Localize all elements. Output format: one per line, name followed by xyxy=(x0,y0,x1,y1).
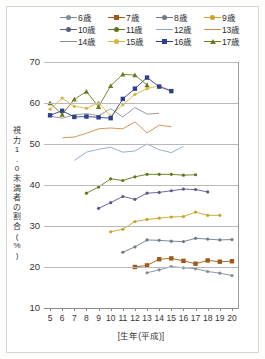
legend-marker-icon xyxy=(108,24,125,34)
legend-row: 10歳11歳12歳13歳 xyxy=(60,23,255,35)
data-point xyxy=(121,251,124,254)
legend-item-11歳[interactable]: 11歳 xyxy=(108,23,156,35)
legend-item-8歳[interactable]: 8歳 xyxy=(156,11,204,23)
legend-item-15歳[interactable]: 15歳 xyxy=(108,35,156,47)
data-point xyxy=(158,239,161,242)
data-point xyxy=(121,97,125,101)
series-line xyxy=(62,122,171,138)
data-point xyxy=(158,217,161,220)
legend-label: 8歳 xyxy=(173,11,187,23)
legend-item-9歳[interactable]: 9歳 xyxy=(204,11,252,23)
data-point xyxy=(218,214,221,217)
data-point xyxy=(158,191,161,194)
data-point xyxy=(133,86,137,90)
x-axis-line xyxy=(44,308,238,309)
data-point xyxy=(48,113,52,117)
data-point xyxy=(84,89,89,94)
legend-item-10歳[interactable]: 10歳 xyxy=(60,23,108,35)
series-line xyxy=(99,189,208,208)
legend-marker-icon xyxy=(156,24,173,34)
data-point xyxy=(133,175,136,178)
data-point xyxy=(218,238,221,241)
x-tick xyxy=(62,308,63,311)
legend-label: 10歳 xyxy=(77,23,96,35)
data-point xyxy=(170,173,173,176)
chart-legend: 6歳7歳8歳9歳10歳11歳12歳13歳14歳15歳16歳17歳 xyxy=(60,11,255,51)
legend-marker-icon xyxy=(60,24,77,34)
data-point xyxy=(85,192,88,195)
data-point xyxy=(133,220,136,223)
data-point xyxy=(145,173,148,176)
legend-item-17歳[interactable]: 17歳 xyxy=(204,35,252,47)
x-tick xyxy=(208,308,209,311)
gridline xyxy=(44,267,238,268)
x-tick xyxy=(50,308,51,311)
legend-item-12歳[interactable]: 12歳 xyxy=(156,23,204,35)
data-point xyxy=(182,188,185,191)
x-tick xyxy=(183,308,184,311)
data-point xyxy=(218,272,221,275)
series-line xyxy=(111,212,220,232)
data-point xyxy=(218,259,222,263)
data-point xyxy=(182,174,185,177)
data-point xyxy=(205,258,209,262)
legend-item-14歳[interactable]: 14歳 xyxy=(60,35,108,47)
data-point xyxy=(97,207,100,210)
data-point xyxy=(121,228,124,231)
y-axis-title-char: ) xyxy=(10,251,24,261)
y-tick-label: 50 xyxy=(20,138,40,149)
legend-label: 7歳 xyxy=(125,11,139,23)
data-point xyxy=(145,87,148,90)
data-point xyxy=(121,179,124,182)
data-point xyxy=(170,215,173,218)
data-point xyxy=(133,245,136,248)
data-point xyxy=(193,262,197,266)
y-axis-title-char: 者 xyxy=(10,193,24,203)
x-tick xyxy=(171,308,172,311)
legend-item-13歳[interactable]: 13歳 xyxy=(204,23,252,35)
legend-label: 16歳 xyxy=(173,35,192,47)
data-point xyxy=(157,84,161,88)
legend-label: 9歳 xyxy=(221,11,235,23)
data-point xyxy=(121,195,124,198)
legend-marker-icon xyxy=(108,12,125,22)
gridline xyxy=(44,185,238,186)
y-tick-label: 40 xyxy=(20,179,40,190)
legend-item-6歳[interactable]: 6歳 xyxy=(60,11,108,23)
x-tick xyxy=(123,308,124,311)
x-tick xyxy=(220,308,221,311)
data-point xyxy=(145,271,148,274)
legend-item-7歳[interactable]: 7歳 xyxy=(108,11,156,23)
data-point xyxy=(230,274,233,277)
data-point xyxy=(194,188,197,191)
y-tick-label: 30 xyxy=(20,220,40,231)
data-point xyxy=(133,198,136,201)
legend-item-16歳[interactable]: 16歳 xyxy=(156,35,204,47)
x-tick xyxy=(86,308,87,311)
legend-marker-icon xyxy=(60,12,77,22)
legend-label: 13歳 xyxy=(221,23,240,35)
data-point xyxy=(85,107,88,110)
x-tick xyxy=(135,308,136,311)
x-tick xyxy=(147,308,148,311)
data-point xyxy=(109,177,112,180)
legend-label: 12歳 xyxy=(173,23,192,35)
legend-marker-icon xyxy=(156,12,173,22)
data-point xyxy=(206,270,209,273)
chart-figure: 6歳7歳8歳9歳10歳11歳12歳13歳14歳15歳16歳17歳 視力1.0未満… xyxy=(0,0,265,359)
data-point xyxy=(157,257,161,261)
x-tick xyxy=(196,308,197,311)
data-point xyxy=(206,214,209,217)
y-axis-title-char: ( xyxy=(10,232,24,242)
legend-label: 6歳 xyxy=(77,11,91,23)
data-point xyxy=(109,230,112,233)
legend-label: 15歳 xyxy=(125,35,144,47)
data-point xyxy=(158,268,161,271)
data-point xyxy=(194,173,197,176)
x-tick xyxy=(159,308,160,311)
y-axis-title-char: 視 xyxy=(10,126,24,136)
legend-marker-icon xyxy=(108,36,125,46)
y-axis-title-char: . xyxy=(10,155,24,165)
legend-label: 17歳 xyxy=(221,35,240,47)
data-point xyxy=(170,240,173,243)
